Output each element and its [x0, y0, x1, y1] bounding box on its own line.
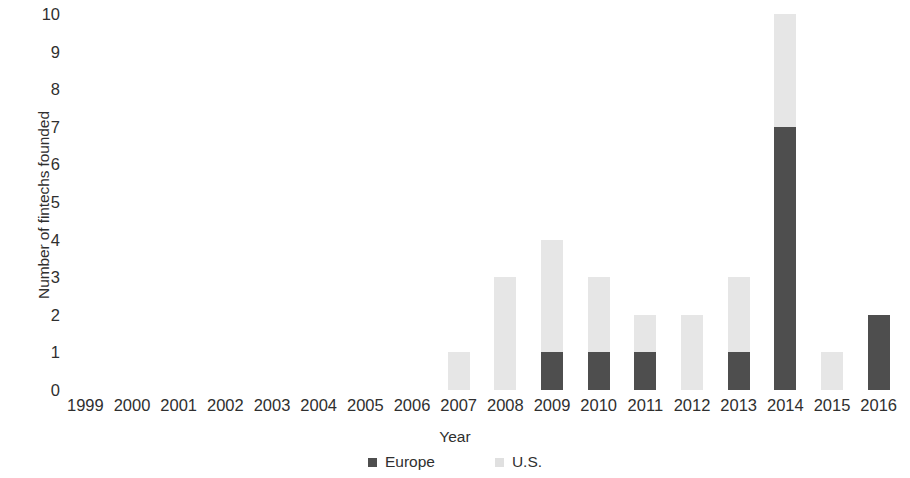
legend-swatch-icon	[368, 458, 377, 467]
y-axis-tick-4: 4	[20, 231, 60, 248]
bar-segment-2009-us[interactable]	[541, 240, 563, 353]
bar-segment-2008-us[interactable]	[494, 277, 516, 390]
x-axis-tick-2012: 2012	[669, 396, 715, 414]
x-axis-tick-2006: 2006	[389, 396, 435, 414]
x-axis-tick-2013: 2013	[716, 396, 762, 414]
bar-2015[interactable]	[821, 352, 843, 390]
bar-2010[interactable]	[588, 277, 610, 390]
bar-2007[interactable]	[448, 352, 470, 390]
plot-area	[62, 14, 902, 390]
chart-legend: EuropeU.S.	[0, 453, 910, 471]
bar-segment-2011-europe[interactable]	[634, 352, 656, 390]
bar-2014[interactable]	[774, 14, 796, 390]
x-axis-tick-2014: 2014	[762, 396, 808, 414]
y-axis-tick-0: 0	[20, 382, 60, 399]
x-axis-tick-2010: 2010	[576, 396, 622, 414]
bar-segment-2013-europe[interactable]	[728, 352, 750, 390]
y-axis-tick-9: 9	[20, 43, 60, 60]
x-axis-tick-labels: 1999200020012002200320042005200620072008…	[62, 396, 902, 420]
legend-label: Europe	[385, 453, 435, 471]
legend-swatch-icon	[495, 458, 504, 467]
x-axis-tick-2003: 2003	[249, 396, 295, 414]
bar-segment-2016-europe[interactable]	[868, 315, 890, 390]
bar-segment-2011-us[interactable]	[634, 315, 656, 353]
bar-segment-2012-us[interactable]	[681, 315, 703, 390]
fintech-founding-bar-chart: Number of fintechs founded 109876543210 …	[0, 0, 910, 478]
x-axis-tick-2000: 2000	[109, 396, 155, 414]
bar-segment-2013-us[interactable]	[728, 277, 750, 352]
x-axis-tick-2001: 2001	[156, 396, 202, 414]
x-axis-tick-2016: 2016	[856, 396, 902, 414]
bar-2012[interactable]	[681, 315, 703, 390]
x-axis-tick-1999: 1999	[62, 396, 108, 414]
legend-item-us[interactable]: U.S.	[495, 453, 542, 471]
legend-label: U.S.	[512, 453, 542, 471]
y-axis-tick-8: 8	[20, 81, 60, 98]
x-axis-tick-2009: 2009	[529, 396, 575, 414]
x-axis-tick-2004: 2004	[296, 396, 342, 414]
y-axis-tick-1: 1	[20, 344, 60, 361]
legend-item-europe[interactable]: Europe	[368, 453, 435, 471]
bar-segment-2010-europe[interactable]	[588, 352, 610, 390]
bar-segment-2010-us[interactable]	[588, 277, 610, 352]
x-axis-tick-2002: 2002	[202, 396, 248, 414]
x-axis-tick-2005: 2005	[342, 396, 388, 414]
y-axis-tick-2: 2	[20, 307, 60, 324]
x-axis-tick-2007: 2007	[436, 396, 482, 414]
y-axis-tick-5: 5	[20, 194, 60, 211]
bar-2016[interactable]	[868, 315, 890, 390]
y-axis-tick-10: 10	[20, 6, 60, 23]
bar-2009[interactable]	[541, 240, 563, 390]
x-axis-title: Year	[0, 428, 910, 446]
y-axis-tick-labels: 109876543210	[20, 0, 60, 400]
y-axis-tick-3: 3	[20, 269, 60, 286]
bar-2011[interactable]	[634, 315, 656, 390]
bar-segment-2007-us[interactable]	[448, 352, 470, 390]
x-axis-tick-2015: 2015	[809, 396, 855, 414]
x-axis-tick-2011: 2011	[622, 396, 668, 414]
bar-segment-2014-us[interactable]	[774, 14, 796, 127]
x-axis-tick-2008: 2008	[482, 396, 528, 414]
bar-2008[interactable]	[494, 277, 516, 390]
bar-segment-2014-europe[interactable]	[774, 127, 796, 390]
bar-segment-2015-us[interactable]	[821, 352, 843, 390]
y-axis-tick-6: 6	[20, 156, 60, 173]
bar-segment-2009-europe[interactable]	[541, 352, 563, 390]
bar-2013[interactable]	[728, 277, 750, 390]
y-axis-tick-7: 7	[20, 119, 60, 136]
